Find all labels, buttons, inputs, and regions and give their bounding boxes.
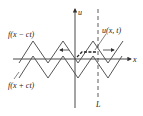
wave-f-minus [19,41,123,63]
f-plus-pointer [14,72,19,79]
wave-diagram: u x f(x − ct) f(x + ct) u(x, t) L [0,0,143,116]
x-axis-label: x [132,55,137,64]
L-label: L [95,100,101,109]
u-axis-label: u [78,8,82,17]
f-plus-label: f(x + ct) [8,81,35,90]
f-minus-label: f(x − ct) [8,30,35,39]
u-xt-label: u(x, t) [102,26,121,35]
u-label-pointer [95,34,106,50]
